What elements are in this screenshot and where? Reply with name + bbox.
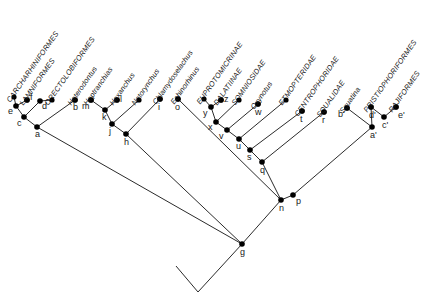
node-label-v: v — [219, 131, 224, 141]
node-label-y: y — [203, 108, 208, 118]
internal-node-y[interactable] — [208, 104, 214, 110]
internal-node-x[interactable] — [213, 119, 219, 125]
node-label-g: g — [240, 247, 245, 257]
branch-layer — [14, 97, 396, 292]
node-label-ap: a' — [370, 130, 377, 140]
branch-root-outgroup — [176, 266, 198, 292]
branch-p-ap — [293, 127, 372, 195]
internal-node-g[interactable] — [239, 241, 245, 247]
internal-node-p[interactable] — [290, 192, 296, 198]
node-label-h: h — [124, 137, 129, 147]
internal-node-h[interactable] — [123, 131, 129, 137]
node-label-ep: e' — [398, 110, 405, 120]
branch-n-o — [178, 99, 281, 200]
branch-q-r — [262, 112, 324, 162]
internal-node-ap[interactable] — [369, 124, 375, 130]
internal-node-n[interactable] — [278, 197, 284, 203]
node-label-c: c — [17, 118, 22, 128]
node-label-p: p — [296, 196, 301, 206]
branch-g-h — [126, 134, 242, 244]
node-label-n: n — [279, 203, 284, 213]
branch-g-n — [242, 200, 281, 244]
node-label-q: q — [260, 165, 265, 175]
internal-node-q[interactable] — [259, 159, 265, 165]
node-label-j: j — [108, 126, 111, 136]
internal-node-v[interactable] — [224, 127, 230, 133]
node-label-e: e — [8, 106, 13, 116]
node-label-u: u — [236, 141, 241, 151]
branch-u-t14 — [239, 100, 286, 139]
node-label-a: a — [35, 129, 40, 139]
node-label-x: x — [208, 122, 213, 132]
internal-node-e[interactable] — [13, 103, 19, 109]
node-label-s: s — [247, 152, 252, 162]
tree-svg: efcdbamkljhiozyxvwusqtrpngb'd'c'e'a' — [0, 0, 447, 303]
branch-g-root — [198, 244, 242, 292]
node-label-k: k — [102, 112, 107, 122]
cladogram-figure: efcdbamkljhiozyxvwusqtrpngb'd'c'e'a' CAR… — [0, 0, 447, 303]
node-label-cp: c' — [382, 120, 389, 130]
internal-node-c[interactable] — [21, 114, 27, 120]
branch-g-a — [37, 127, 242, 244]
node-label-layer: efcdbamkljhiozyxvwusqtrpngb'd'c'e'a' — [8, 92, 405, 257]
internal-node-cp[interactable] — [381, 114, 387, 120]
